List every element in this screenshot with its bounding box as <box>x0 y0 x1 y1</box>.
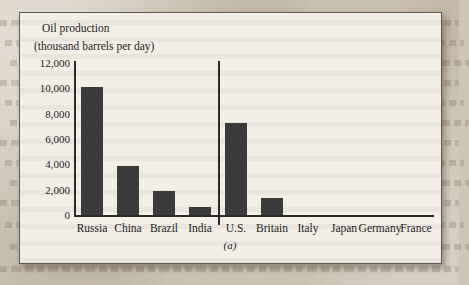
y-axis-tick-label: 10,000 <box>22 82 70 94</box>
bar <box>261 198 283 215</box>
panel-label: (a) <box>224 239 237 251</box>
y-axis-tick-label: 4,000 <box>22 158 70 170</box>
y-axis-tick-label: 12,000 <box>22 57 70 69</box>
y-axis-tick-label: 2,000 <box>22 184 70 196</box>
bar <box>153 191 175 215</box>
x-axis-tick-label: Russia <box>77 222 108 234</box>
x-axis-tick-label: Germany <box>359 222 402 234</box>
y-axis-tick-label: 0 <box>22 209 70 221</box>
x-axis-tick-label: U.S. <box>226 222 246 234</box>
figure-box: Oil production (thousand barrels per day… <box>19 12 442 264</box>
x-axis-tick-label: France <box>400 222 431 234</box>
y-axis-tick-label: 6,000 <box>22 133 70 145</box>
x-axis-tick-label: Brazil <box>150 222 178 234</box>
x-axis-tick-label: Italy <box>297 222 318 234</box>
bar <box>225 123 247 215</box>
x-axis-line <box>74 215 434 217</box>
plot-area: 02,0004,0006,0008,00010,00012,000 Russia… <box>20 13 441 263</box>
x-axis-tick-label: India <box>188 222 212 234</box>
showthrough-text-line <box>0 266 459 272</box>
y-axis-line <box>74 61 76 217</box>
y-axis-tick-label: 8,000 <box>22 108 70 120</box>
x-axis-tick-label: Britain <box>256 222 288 234</box>
bar <box>189 207 211 215</box>
x-axis-tick-label: Japan <box>331 222 357 234</box>
bar <box>117 166 139 215</box>
x-axis-tick-label: China <box>114 222 141 234</box>
group-divider-line <box>218 61 220 225</box>
bar <box>81 87 103 215</box>
